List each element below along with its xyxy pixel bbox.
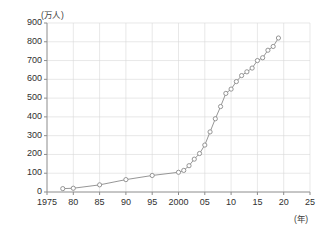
plot-area [0,0,329,231]
line-chart: (万人) (年) 0100200300400500600700800900 19… [0,0,329,231]
data-series [61,36,281,191]
